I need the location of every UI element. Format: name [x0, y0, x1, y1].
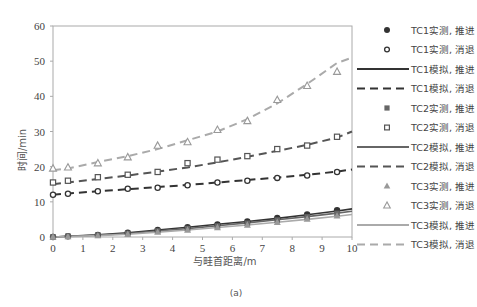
x-tick-label: 1	[80, 242, 86, 254]
legend-item: TC3模拟, 消退	[357, 239, 475, 250]
series-layer	[50, 58, 353, 241]
series-6	[50, 134, 339, 185]
legend: TC1实测, 推进TC1实测, 消退TC1模拟, 推进TC1模拟, 消退TC2实…	[357, 25, 475, 251]
legend-label: TC2模拟, 推进	[410, 142, 475, 153]
legend-label: TC1模拟, 消退	[410, 83, 475, 94]
x-tick-label: 7	[260, 242, 266, 254]
series-10	[50, 68, 341, 171]
x-tick-label: 6	[230, 242, 236, 254]
x-axis-label: 与畦首距离/m	[193, 255, 256, 267]
legend-item: TC2实测, 推进	[384, 103, 475, 114]
x-tick-label: 5	[200, 242, 206, 254]
legend-label: TC3实测, 推进	[410, 181, 475, 192]
x-tick-label: 0	[50, 242, 56, 254]
plot-frame	[53, 26, 352, 237]
legend-item: TC3模拟, 推进	[357, 220, 475, 231]
y-axis-label: 时间/min	[16, 129, 28, 171]
legend-label: TC3模拟, 消退	[410, 239, 475, 250]
y-tick-label: 0	[40, 231, 46, 243]
x-tick-label: 8	[289, 242, 295, 254]
y-tick-label: 20	[34, 161, 46, 173]
x-tick-label: 9	[319, 242, 325, 254]
legend-label: TC2实测, 推进	[410, 103, 475, 114]
series-2	[50, 169, 339, 197]
chart: 0102030405060012345678910 TC1实测, 推进TC1实测…	[0, 0, 477, 307]
y-tick-label: 10	[34, 196, 46, 208]
y-tick-label: 40	[34, 90, 46, 102]
y-tick-label: 30	[34, 126, 46, 138]
legend-item: TC1实测, 消退	[385, 44, 475, 55]
legend-item: TC2实测, 消退	[385, 122, 475, 133]
legend-label: TC1实测, 推进	[410, 25, 475, 36]
y-tick-label: 60	[34, 20, 46, 32]
legend-label: TC3模拟, 推进	[410, 220, 475, 231]
legend-label: TC1模拟, 推进	[410, 64, 475, 75]
legend-label: TC3实测, 消退	[410, 200, 475, 211]
series-12	[53, 58, 352, 171]
legend-item: TC2模拟, 消退	[357, 161, 475, 172]
legend-item: TC2模拟, 推进	[357, 142, 475, 153]
legend-item: TC3实测, 消退	[384, 200, 475, 211]
x-tick-label: 10	[347, 242, 359, 254]
legend-item: TC1模拟, 推进	[357, 64, 475, 75]
legend-item: TC1模拟, 消退	[357, 83, 475, 94]
legend-item: TC1实测, 推进	[384, 25, 475, 36]
x-tick-label: 3	[140, 242, 146, 254]
y-tick-label: 50	[34, 55, 46, 67]
figure-caption: (a)	[230, 288, 243, 298]
x-tick-label: 2	[110, 242, 116, 254]
x-tick-label: 4	[170, 242, 176, 254]
legend-label: TC2实测, 消退	[410, 122, 475, 133]
legend-label: TC2模拟, 消退	[410, 161, 475, 172]
legend-item: TC3实测, 推进	[384, 181, 475, 192]
legend-label: TC1实测, 消退	[410, 44, 475, 55]
